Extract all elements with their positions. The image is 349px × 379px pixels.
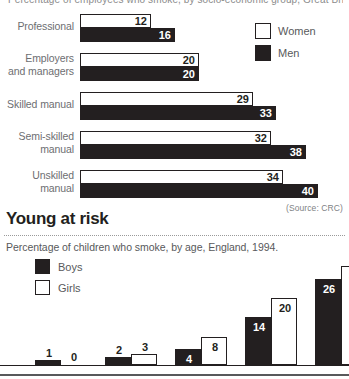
clipped-headline: Percentage of employees who smoke, by so… xyxy=(8,0,343,6)
row-label-line1: Unskilled xyxy=(32,169,74,181)
bar-men: 40 xyxy=(80,184,318,198)
bar-men: 33 xyxy=(80,106,276,120)
row-label-line1: Skilled manual xyxy=(7,98,74,110)
bar-value-women: 20 xyxy=(183,55,195,66)
bar-women: 29 xyxy=(80,92,253,106)
bar-value-men: 33 xyxy=(260,108,272,119)
occupation-smoking-chart: Professional 12 16 Employers and manager… xyxy=(0,12,349,202)
bar-value-girls: 30 xyxy=(342,271,349,282)
bar-men: 20 xyxy=(80,67,199,81)
page-canvas: Percentage of employees who smoke, by so… xyxy=(0,0,349,379)
legend-label-men: Men xyxy=(278,46,299,60)
legend-swatch-women-icon xyxy=(255,23,271,39)
row-label-line2: manual xyxy=(40,143,74,155)
bar-value-girls: 3 xyxy=(132,342,158,353)
bar-value-men: 16 xyxy=(159,30,171,41)
bar-value-boys: 4 xyxy=(176,354,202,365)
axis-baseline xyxy=(0,365,349,366)
bar-value-girls: 8 xyxy=(202,342,228,353)
bar-value-women: 12 xyxy=(135,16,147,27)
bar-value-women: 29 xyxy=(237,94,249,105)
row-label-line1: Employers xyxy=(25,52,74,64)
legend-top-chart: Women Men xyxy=(255,22,347,66)
bar-women: 12 xyxy=(80,14,151,28)
bar-women: 32 xyxy=(80,131,271,145)
bar-boys: 26 xyxy=(315,279,341,365)
bar-value-women: 34 xyxy=(267,172,279,183)
legend-item-women: Women xyxy=(255,22,347,44)
bar-value-men: 40 xyxy=(302,186,314,197)
divider xyxy=(4,235,345,236)
bar-value-girls: 0 xyxy=(61,352,87,363)
bar-value-men: 38 xyxy=(290,147,302,158)
bar-boys: 14 xyxy=(245,317,271,365)
page-bottom-rule xyxy=(0,374,349,376)
bar-girls: 30 xyxy=(341,266,349,365)
row-label-line2: manual xyxy=(40,182,74,194)
bar-men: 16 xyxy=(80,28,175,42)
bar-girls: 3 xyxy=(131,354,157,365)
chart-subtitle: Percentage of children who smoke, by age… xyxy=(6,241,278,253)
bar-men: 38 xyxy=(80,145,306,159)
bar-women: 20 xyxy=(80,53,199,67)
bar-value-boys: 1 xyxy=(36,348,62,359)
bar-value-men: 20 xyxy=(183,69,195,80)
bar-value-boys: 26 xyxy=(316,284,342,295)
row-label-line1: Professional xyxy=(17,20,74,32)
bar-girls: 8 xyxy=(201,337,227,365)
row-label: Semi-skilled manual xyxy=(0,130,74,155)
bar-women: 34 xyxy=(80,170,283,184)
bar-value-girls: 20 xyxy=(272,303,298,314)
source-note: (Source: CRC) xyxy=(286,203,343,213)
bar-boys: 2 xyxy=(105,357,131,365)
legend-label-women: Women xyxy=(278,24,316,38)
row-label: Skilled manual xyxy=(0,98,74,111)
row-label: Unskilled manual xyxy=(0,169,74,194)
row-label-line2: and managers xyxy=(8,65,74,77)
bar-girls: 20 xyxy=(271,298,297,365)
children-smoking-chart: 1 0 11 years 2 3 12 years 4 8 13 xyxy=(0,262,349,379)
bar-boys: 4 xyxy=(175,349,201,365)
legend-item-men: Men xyxy=(255,44,347,66)
row-label: Employers and managers xyxy=(0,52,74,77)
legend-swatch-men-icon xyxy=(255,45,271,61)
bar-value-boys: 14 xyxy=(246,322,272,333)
bar-value-boys: 2 xyxy=(106,345,132,356)
row-label-line1: Semi-skilled xyxy=(19,130,74,142)
row-label: Professional xyxy=(0,20,74,33)
bar-value-women: 32 xyxy=(255,133,267,144)
page-title: Young at risk xyxy=(6,209,109,229)
